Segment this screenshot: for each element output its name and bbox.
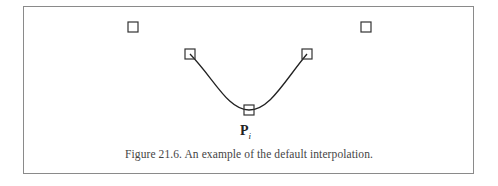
control-point-square <box>128 22 138 32</box>
figure-caption: Figure 21.6. An example of the default i… <box>0 148 498 160</box>
control-point-square <box>361 22 371 32</box>
point-label-pi: Pi <box>240 123 251 141</box>
point-label-main: P <box>240 123 249 138</box>
interpolated-curve <box>190 54 307 110</box>
point-label-subscript: i <box>249 131 252 141</box>
